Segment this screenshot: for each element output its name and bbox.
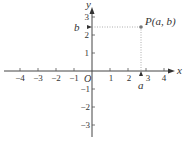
x-tick-label: 3 xyxy=(146,73,151,83)
y-tick-label: −1 xyxy=(80,84,90,94)
y-axis-label: y xyxy=(85,0,91,10)
y-tick-label: 3 xyxy=(85,12,90,22)
x-axis-label: x xyxy=(176,64,182,76)
x-tick-label: −3 xyxy=(33,73,43,83)
x-tick-label: −4 xyxy=(15,73,25,83)
origin-label: O xyxy=(84,73,91,84)
a-label: a xyxy=(138,79,144,91)
y-tick-label: 1 xyxy=(85,48,90,58)
x-tick-label: −2 xyxy=(51,73,61,83)
point-p xyxy=(139,25,143,29)
y-tick-label: 2 xyxy=(85,30,90,40)
x-tick-label: −1 xyxy=(69,73,79,83)
point-p-label: P(a, b) xyxy=(144,15,176,28)
x-tick-label: 1 xyxy=(109,73,114,83)
coordinate-plane: −4 −3 −2 −1 1 2 3 4 1 2 3 −1 −2 −3 x y O… xyxy=(0,0,185,143)
a-arrow-icon xyxy=(139,71,143,76)
x-tick-label: 4 xyxy=(162,73,167,83)
x-tick-label: 2 xyxy=(127,73,132,83)
y-tick-label: −3 xyxy=(80,120,90,130)
b-label: b xyxy=(74,21,80,33)
x-axis-arrow-icon xyxy=(168,69,175,74)
b-arrow-icon xyxy=(87,25,92,29)
y-tick-label: −2 xyxy=(80,102,90,112)
